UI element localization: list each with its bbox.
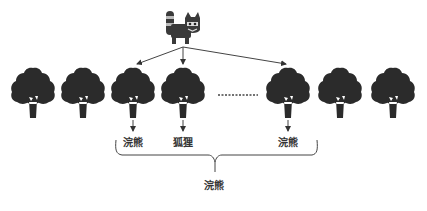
tree-5 — [266, 68, 310, 118]
tree-7 — [371, 68, 415, 118]
tree-2 — [61, 68, 105, 118]
tree-3-output-label: 浣熊 — [123, 134, 143, 149]
tree-6 — [318, 68, 362, 118]
output-arrows — [133, 120, 288, 131]
tree-4 — [161, 68, 205, 118]
selection-arrows — [137, 47, 286, 64]
tree-5-output-label: 浣熊 — [278, 134, 298, 149]
final-output-label: 浣熊 — [204, 177, 224, 192]
raccoon-icon — [166, 11, 200, 44]
tree-1 — [11, 68, 55, 118]
tree-3 — [111, 68, 155, 118]
tree-4-output-label: 狐狸 — [173, 134, 193, 149]
